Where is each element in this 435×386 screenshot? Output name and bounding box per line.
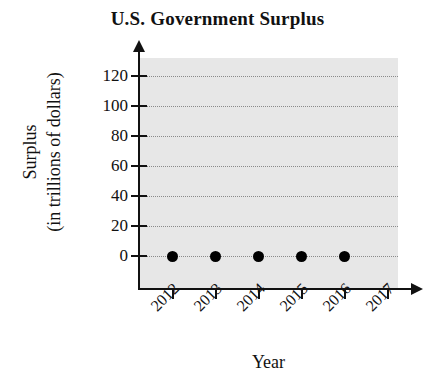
y-tick-100 [131,105,147,107]
y-tick-label-60: 60 [82,157,128,174]
plot-area [139,58,398,288]
y-axis-title-line-1: Surplus [18,37,42,267]
gridline-100 [139,106,398,107]
y-tick-label-100: 100 [82,97,128,114]
data-point [296,251,307,262]
data-point [339,251,350,262]
gridline-60 [139,166,398,167]
y-tick-label-120: 120 [82,67,128,84]
gridline-120 [139,76,398,77]
y-axis-arrow-icon [133,40,145,52]
gridline-40 [139,196,398,197]
y-tick-label-0: 0 [82,247,128,264]
gridline-0 [139,256,398,257]
y-tick-20 [131,225,147,227]
y-tick-label-80: 80 [82,127,128,144]
x-axis-title: Year [139,352,398,373]
y-tick-label-40: 40 [82,187,128,204]
x-axis-arrow-icon [411,283,423,295]
y-tick-60 [131,165,147,167]
y-axis-title: Surplus (in trillions of dollars) [18,37,66,267]
gridline-20 [139,226,398,227]
y-tick-label-20: 20 [82,217,128,234]
y-tick-0 [131,255,147,257]
data-point [253,251,264,262]
y-tick-80 [131,135,147,137]
data-point [210,251,221,262]
y-axis-line [138,50,140,290]
data-point [167,251,178,262]
gridline-80 [139,136,398,137]
y-tick-40 [131,195,147,197]
y-axis-title-line-2: (in trillions of dollars) [42,37,66,267]
y-tick-120 [131,75,147,77]
chart-title: U.S. Government Surplus [0,8,435,30]
